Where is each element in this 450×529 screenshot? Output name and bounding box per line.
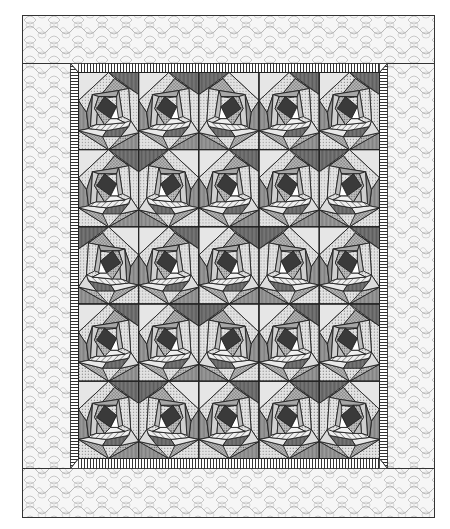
quilt-block [79, 381, 139, 458]
quilt-block [259, 304, 319, 381]
quilt-block [139, 381, 199, 458]
quilt-block [79, 150, 139, 227]
quilt-block [259, 150, 319, 227]
quilt-block [319, 227, 379, 304]
quilt-block [199, 73, 259, 150]
quilt-block [199, 150, 259, 227]
block-grid [79, 73, 380, 459]
quilt-block [199, 304, 259, 381]
quilt-block [79, 304, 139, 381]
quilt-block [199, 381, 259, 458]
quilt-block [319, 150, 379, 227]
quilt-block [139, 227, 199, 304]
quilt-block [319, 73, 379, 150]
quilt-block [319, 381, 379, 458]
quilt-block [139, 304, 199, 381]
quilt-block [139, 150, 199, 227]
quilt-block [259, 227, 319, 304]
quilt-block [319, 304, 379, 381]
quilt-block [139, 73, 199, 150]
quilt-block [259, 73, 319, 150]
quilt-illustration [0, 0, 450, 529]
quilt-block [79, 227, 139, 304]
quilt-block [199, 227, 259, 304]
quilt-block [259, 381, 319, 458]
quilt-block [79, 73, 139, 150]
